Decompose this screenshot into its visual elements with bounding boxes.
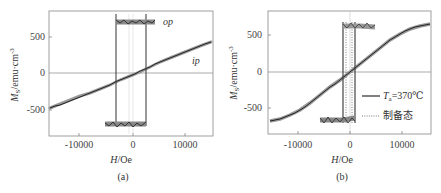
legend: Ta=370℃ 制备态 xyxy=(362,90,424,121)
x-axis-label-b: H/Oe xyxy=(330,154,353,165)
panel-a: op ip 500 0 -500 -10000 0 10000 H/Oe MS/… xyxy=(8,11,213,183)
ytick-label: -500 xyxy=(27,104,45,115)
legend-label-as-prepared: 制备态 xyxy=(383,109,413,121)
plot-frame-a xyxy=(49,11,213,136)
axis-ticks-a xyxy=(49,37,185,136)
annotation-ip: ip xyxy=(192,55,200,66)
x-axis-label-a: H/Oe xyxy=(109,154,132,165)
y-axis-label-a: MS/emu·cm-3 xyxy=(8,48,22,103)
xtick-label: -10000 xyxy=(65,139,93,150)
ytick-label: 0 xyxy=(40,67,45,78)
annotation-op: op xyxy=(163,16,173,27)
ytick-label: -500 xyxy=(244,102,262,113)
figure-canvas: op ip 500 0 -500 -10000 0 10000 H/Oe MS/… xyxy=(0,0,441,193)
xtick-label: 10000 xyxy=(173,139,198,150)
series-ip-band xyxy=(50,42,211,108)
series-op xyxy=(105,14,155,127)
xtick-label: 0 xyxy=(348,139,353,150)
panel-caption-b: (b) xyxy=(336,171,348,183)
y-axis-label-b: MS/emu·cm-3 xyxy=(227,46,241,101)
legend-label-ta370: Ta=370℃ xyxy=(383,90,424,103)
xtick-label: -10000 xyxy=(284,139,312,150)
xtick-label: 0 xyxy=(131,139,136,150)
ytick-label: 500 xyxy=(30,31,45,42)
panel-b: Ta=370℃ 制备态 500 0 -500 -10000 0 10000 H/… xyxy=(227,11,431,183)
xtick-label: 10000 xyxy=(390,139,415,150)
panel-caption-a: (a) xyxy=(117,171,128,183)
ytick-label: 0 xyxy=(257,66,262,77)
ytick-label: 500 xyxy=(247,29,262,40)
